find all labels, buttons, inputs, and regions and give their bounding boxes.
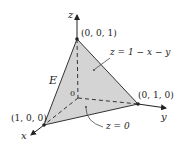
vertex-100-label: (1, 0, 0) [11,114,47,123]
bottom-surface-label: z = 0 [106,122,130,131]
vertex-010 [136,102,140,106]
region-label: E [49,75,57,86]
diagram-graphic [0,0,185,145]
top-surface-label: z = 1 − x − y [110,48,170,57]
origin-label: 0 [70,90,75,98]
vertex-100 [42,123,46,127]
y-axis [138,104,166,108]
x-axis-label: x [21,131,27,141]
vertex-010-label: (0, 1, 0) [138,91,174,100]
x-axis [31,125,44,135]
z-axis-label: z [68,10,73,20]
vertex-001 [75,37,79,41]
vertex-001-label: (0, 0, 1) [81,29,117,38]
tetrahedron-diagram: z (0, 0, 1) z = 1 − x − y E 0 (0, 1, 0) … [0,0,185,145]
y-axis-label: y [161,112,167,122]
